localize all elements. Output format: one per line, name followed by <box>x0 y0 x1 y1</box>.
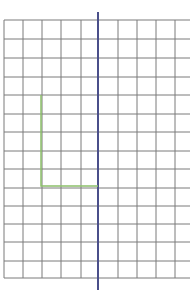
green-l-shape <box>41 95 98 186</box>
grid-diagram <box>0 0 190 300</box>
